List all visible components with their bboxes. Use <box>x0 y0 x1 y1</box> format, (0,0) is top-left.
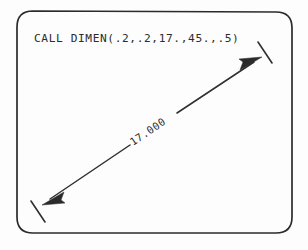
plot-drawing: CALL DIMEN(.2,.2,17.,45.,.5) 17.000 <box>0 0 308 250</box>
code-call-statement: CALL DIMEN(.2,.2,17.,45.,.5) <box>34 32 239 45</box>
arrowhead-lower-left <box>42 192 65 205</box>
arrowhead-upper-right <box>239 57 262 70</box>
extension-tick-upper-right <box>258 42 272 63</box>
figure-canvas: CALL DIMEN(.2,.2,17.,45.,.5) 17.000 <box>0 0 308 250</box>
dimension-line-segment-lower <box>50 145 130 199</box>
extension-tick-lower-left <box>31 201 45 222</box>
dimension-value-label: 17.000 <box>127 115 167 148</box>
dimension-line-segment-upper <box>177 62 254 113</box>
